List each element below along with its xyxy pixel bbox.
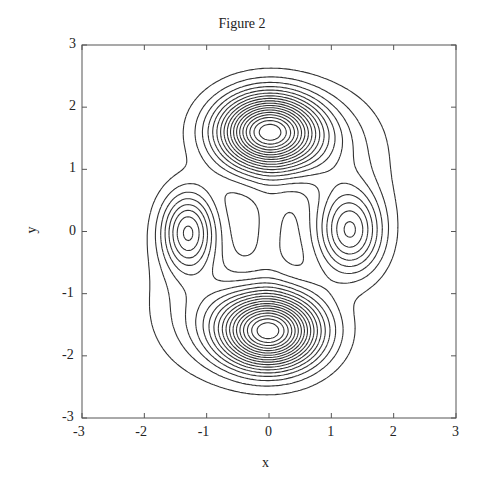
y-tick-label: 1 — [69, 160, 76, 176]
contour-line — [237, 110, 302, 353]
contour-line — [230, 106, 309, 358]
y-tick-label: -2 — [62, 347, 74, 363]
contour-line — [247, 118, 290, 346]
x-tick-label: 0 — [265, 424, 272, 440]
y-tick-label: 2 — [69, 98, 76, 114]
x-tick-label: 2 — [390, 424, 397, 440]
x-tick-label: -1 — [198, 424, 210, 440]
y-tick-label: 3 — [69, 36, 76, 52]
contour-line — [165, 87, 377, 377]
contour-lines — [147, 68, 398, 395]
y-axis-label: y — [24, 227, 40, 234]
x-tick-label: -2 — [135, 424, 147, 440]
y-tick-label: -3 — [62, 409, 74, 425]
x-axis-label: x — [262, 455, 269, 471]
contour-line — [233, 108, 305, 356]
x-tick-label: 3 — [452, 424, 459, 440]
y-tick-label: -1 — [62, 285, 74, 301]
x-tick-label: -3 — [73, 424, 85, 440]
x-tick-label: 1 — [327, 424, 334, 440]
contour-line — [161, 82, 383, 380]
y-tick-label: 0 — [69, 223, 76, 239]
